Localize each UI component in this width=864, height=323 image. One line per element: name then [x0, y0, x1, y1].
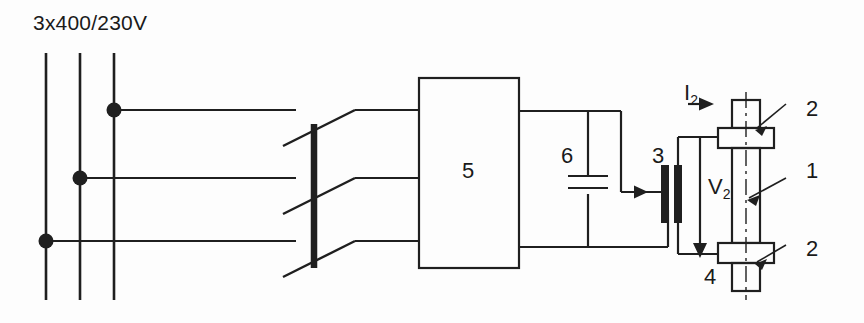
leader-arrow-middle	[747, 195, 760, 206]
v2-subscript: 2	[723, 186, 731, 202]
primary-current-arrow	[634, 186, 648, 199]
workpiece-label: 1	[806, 160, 818, 182]
fixture-label: 4	[704, 266, 716, 288]
capacitor-branch	[568, 111, 608, 247]
transformer-core	[661, 165, 682, 223]
i2-subscript: 2	[690, 92, 698, 108]
junction-dot-2	[73, 171, 88, 186]
switch-output-leads	[355, 110, 419, 241]
converter-label: 5	[462, 160, 474, 182]
switch-blade-2[interactable]	[283, 178, 355, 214]
switch-blade-3[interactable]	[283, 241, 355, 277]
v2-arrow-head	[693, 243, 707, 258]
schematic-figure: 3x400/230V 5 6 3 2 1 2 4 I2 V2	[0, 0, 864, 323]
transformer-secondary-bar	[674, 165, 682, 223]
transformer-label: 3	[652, 145, 664, 167]
junction-dot-3	[39, 234, 54, 249]
supply-voltage-label: 3x400/230V	[33, 12, 147, 33]
i2-arrow-head	[699, 98, 714, 111]
electrode-bottom-label: 2	[806, 238, 818, 260]
junction-dot-1	[107, 103, 122, 118]
electrode-top-label: 2	[806, 98, 818, 120]
secondary-voltage-label: V2	[708, 176, 730, 201]
schematic-drawing	[0, 0, 864, 323]
leader-to-electrode-top	[757, 104, 786, 128]
three-pole-switch[interactable]	[283, 110, 355, 277]
secondary-voltage-arrow	[693, 137, 707, 258]
converter-output-rails	[519, 111, 668, 247]
switch-blade-1[interactable]	[283, 110, 355, 146]
capacitor-label: 6	[561, 145, 573, 167]
v2-symbol: V	[708, 174, 723, 199]
leader-to-workpiece	[749, 178, 786, 198]
secondary-current-label: I2	[684, 82, 698, 107]
transformer-primary-bar	[661, 165, 669, 223]
